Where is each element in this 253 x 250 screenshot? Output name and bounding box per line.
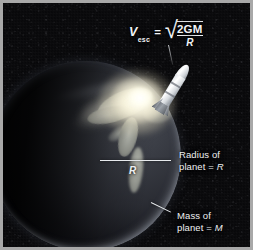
formula-leader-line [168, 45, 173, 65]
mass-callout-symbol: M [215, 222, 223, 233]
formula-equals-sign: = [154, 26, 161, 38]
mass-callout-line-1: Mass of [177, 210, 223, 222]
radius-line-label: R [129, 165, 136, 177]
escape-velocity-formula: Vesc = √ 2GM R [129, 19, 203, 46]
radius-callout-line-2: planet = R [179, 161, 224, 173]
radius-callout-symbol: R [217, 161, 224, 172]
escape-velocity-figure: Vesc = √ 2GM R R Radius of planet = R [0, 0, 253, 250]
radius-callout-line-1: Radius of [179, 149, 224, 161]
formula-variable-subscript: esc [138, 36, 150, 43]
mass-callout-prefix: planet = [177, 222, 215, 233]
mass-callout-label: Mass of planet = M [177, 210, 223, 233]
annotation-layer: Vesc = √ 2GM R R Radius of planet = R [3, 3, 250, 247]
formula-radical: √ 2GM R [165, 19, 203, 46]
radius-callout-label: Radius of planet = R [179, 149, 224, 172]
mass-callout-line-2: planet = M [177, 222, 223, 234]
radius-measure-line [100, 160, 171, 161]
formula-variable-symbol: V [129, 25, 137, 39]
mass-leader-line [151, 202, 171, 213]
formula-variable: Vesc [129, 25, 150, 40]
formula-fraction: 2GM R [177, 21, 203, 48]
radius-callout-prefix: planet = [179, 161, 217, 172]
space-background: Vesc = √ 2GM R R Radius of planet = R [3, 3, 250, 247]
formula-numerator: 2GM [177, 23, 203, 35]
formula-denominator: R [177, 35, 203, 48]
